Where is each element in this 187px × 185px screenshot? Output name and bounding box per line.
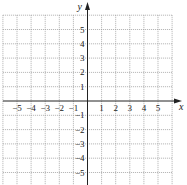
y-axis-label: y bbox=[77, 1, 83, 12]
x-tick-label: −3 bbox=[40, 103, 50, 113]
x-tick-label: 3 bbox=[128, 103, 133, 113]
x-tick-label: −2 bbox=[55, 103, 65, 113]
y-axis-arrow-icon bbox=[85, 2, 90, 10]
x-tick-label: 5 bbox=[156, 103, 161, 113]
y-tick-label: −1 bbox=[75, 110, 85, 120]
coordinate-plane: −5−4−3−2−112345−5−4−3−2−112345 x y bbox=[0, 0, 187, 185]
y-tick-label: 3 bbox=[80, 53, 85, 63]
y-tick-label: 4 bbox=[80, 39, 85, 49]
x-tick-label: 4 bbox=[142, 103, 147, 113]
x-axis-label: x bbox=[178, 101, 184, 112]
y-tick-label: 5 bbox=[80, 25, 85, 35]
y-tick-label: −2 bbox=[75, 125, 85, 135]
y-tick-label: −3 bbox=[75, 139, 85, 149]
y-tick-label: −4 bbox=[75, 153, 85, 163]
x-tick-label: 1 bbox=[99, 103, 104, 113]
x-tick-label: −5 bbox=[12, 103, 22, 113]
y-tick-label: 1 bbox=[80, 82, 85, 92]
y-tick-label: 2 bbox=[80, 67, 85, 77]
y-tick-label: −5 bbox=[75, 168, 85, 178]
x-tick-label: 2 bbox=[113, 103, 118, 113]
x-tick-label: −4 bbox=[26, 103, 36, 113]
